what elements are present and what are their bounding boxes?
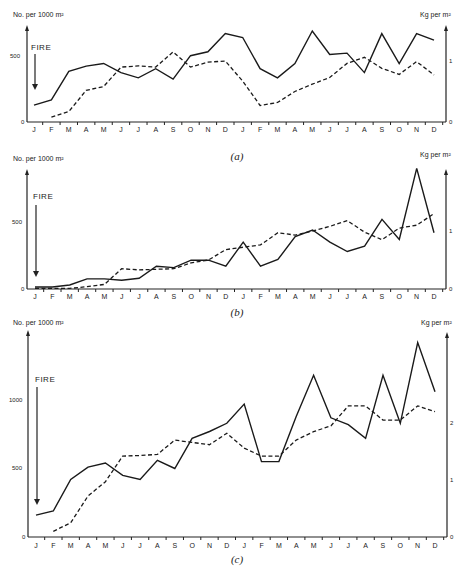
month-label: F <box>51 542 55 549</box>
right-tick-1: 1 <box>449 228 453 234</box>
month-label: O <box>398 542 404 549</box>
month-label: J <box>138 542 142 549</box>
month-label: F <box>259 542 263 549</box>
month-label: J <box>33 293 37 300</box>
month-label: J <box>137 126 141 133</box>
caption-b: (b) <box>231 306 244 319</box>
month-label: J <box>241 126 245 133</box>
month-label: S <box>381 542 386 549</box>
month-label: N <box>206 293 211 300</box>
month-label: J <box>346 293 350 300</box>
left-tick-0: 0 <box>21 286 25 292</box>
month-label: A <box>84 126 89 133</box>
month-label: J <box>329 542 333 549</box>
month-label: J <box>345 126 349 133</box>
fire-annotation: FIRE <box>33 192 53 201</box>
month-label: M <box>68 542 74 549</box>
month-label: N <box>205 126 210 133</box>
right-axis-label: Kg per m² <box>421 319 452 327</box>
month-label: A <box>293 126 298 133</box>
fire-annotation: FIRE <box>31 43 51 52</box>
month-label: A <box>155 542 160 549</box>
month-label: M <box>275 126 281 133</box>
month-label: D <box>224 542 229 549</box>
right-tick-0: 0 <box>449 119 453 125</box>
month-label: D <box>223 126 228 133</box>
month-label: M <box>66 126 72 133</box>
right-axis-arrow-icon <box>444 169 448 175</box>
month-labels: JFMAMJJASONDJFMAMJJASOND <box>33 293 436 300</box>
month-label: N <box>415 542 420 549</box>
left-tick-0: 0 <box>22 534 26 540</box>
caption-c: (c) <box>231 553 244 566</box>
month-label: M <box>275 293 281 300</box>
caption-a: (a) <box>231 150 244 163</box>
month-label: J <box>328 126 332 133</box>
month-label: A <box>363 542 368 549</box>
month-label: A <box>85 293 90 300</box>
month-label: M <box>101 126 107 133</box>
month-label: O <box>188 126 194 133</box>
month-label: F <box>50 293 54 300</box>
left-tick-1000: 1000 <box>9 397 23 403</box>
chart-b: No. per 1000 m² Kg per m² 500 0 1 0 FIRE… <box>12 151 453 319</box>
month-label: M <box>67 293 73 300</box>
month-label: J <box>34 542 38 549</box>
month-label: S <box>171 293 176 300</box>
month-label: A <box>294 542 299 549</box>
month-labels: JFMAMJJASONDJFMAMJJASOND <box>32 126 436 133</box>
month-label: A <box>153 126 158 133</box>
month-label: M <box>102 542 108 549</box>
left-axis-arrow-icon <box>25 25 29 31</box>
month-label: J <box>242 542 246 549</box>
series-biomass-line <box>35 214 434 289</box>
right-tick-2: 2 <box>450 420 454 426</box>
month-label: S <box>380 293 385 300</box>
month-label: S <box>379 126 384 133</box>
month-label: O <box>397 293 403 300</box>
fire-arrow-icon <box>33 271 39 277</box>
left-tick-0: 0 <box>21 119 25 125</box>
left-axis-label: No. per 1000 m² <box>13 155 64 163</box>
month-label: D <box>431 293 436 300</box>
series-biomass-line <box>51 52 434 117</box>
left-axis-label: No. per 1000 m² <box>13 11 64 19</box>
left-tick-500: 500 <box>10 53 21 59</box>
left-tick-500: 500 <box>12 465 23 471</box>
right-axis-label: Kg per m² <box>420 11 451 19</box>
month-label: A <box>362 126 367 133</box>
right-tick-1: 1 <box>450 477 454 483</box>
left-axis-arrow-icon <box>25 169 29 175</box>
series-count-line <box>35 168 434 287</box>
month-label: J <box>120 293 124 300</box>
month-label: A <box>154 293 159 300</box>
right-tick-1: 1 <box>449 58 453 64</box>
fire-annotation: FIRE <box>35 375 55 384</box>
left-axis-arrow-icon <box>26 330 30 336</box>
right-axis-arrow-icon <box>445 332 449 338</box>
month-label: J <box>241 293 245 300</box>
month-label: J <box>32 126 36 133</box>
month-label: M <box>309 126 315 133</box>
month-label: F <box>258 126 262 133</box>
month-label: J <box>347 542 351 549</box>
right-axis-label: Kg per m² <box>420 151 451 159</box>
chart-c: No. per 1000 m² Kg per m² 1000 500 0 2 1… <box>9 319 454 566</box>
month-label: N <box>414 126 419 133</box>
month-label: S <box>171 126 176 133</box>
month-label: M <box>276 542 282 549</box>
left-tick-500: 500 <box>12 219 23 225</box>
month-label: J <box>137 293 141 300</box>
month-label: J <box>119 126 123 133</box>
fire-arrow-icon <box>32 84 38 90</box>
series-biomass-line <box>53 406 435 531</box>
month-label: A <box>362 293 367 300</box>
month-label: A <box>293 293 298 300</box>
fire-arrow-icon <box>34 499 40 505</box>
month-label: D <box>223 293 228 300</box>
right-tick-0: 0 <box>449 286 453 292</box>
left-axis-label: No. per 1000 m² <box>13 319 64 327</box>
month-label: D <box>432 542 437 549</box>
month-labels: JFMAMJJASONDJFMAMJJASOND <box>34 542 437 549</box>
chart-a: No. per 1000 m² Kg per m² 500 0 1 0 FIRE… <box>10 11 453 163</box>
